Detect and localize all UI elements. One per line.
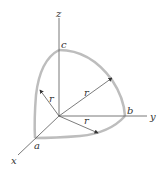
radius-label-2: r xyxy=(84,87,90,98)
point-c-label: c xyxy=(61,39,67,50)
point-b-label: b xyxy=(127,105,133,116)
radius-arrows xyxy=(40,78,112,133)
z-label: z xyxy=(55,8,62,19)
y-label: y xyxy=(149,111,156,122)
radius-label-1: r xyxy=(49,93,55,104)
radius-label-3: r xyxy=(84,115,90,126)
octant-diagram: z y x c b a r r r xyxy=(0,0,166,177)
x-label: x xyxy=(11,155,17,166)
point-a-label: a xyxy=(34,140,40,151)
